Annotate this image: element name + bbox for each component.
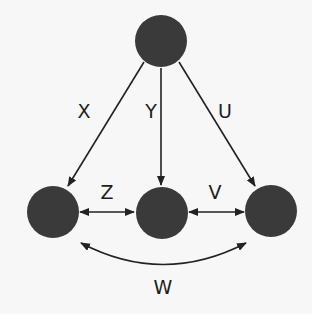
diagram-canvas: X Y U Z V W: [0, 0, 312, 314]
edge-u: [179, 62, 255, 186]
edge-x: [68, 62, 144, 186]
label-z: Z: [100, 181, 113, 203]
label-u: U: [218, 100, 232, 122]
node-top: [135, 15, 187, 67]
label-w: W: [154, 276, 173, 298]
label-v: V: [209, 181, 222, 203]
node-middle: [136, 187, 188, 239]
label-x: X: [77, 100, 90, 122]
node-left: [27, 186, 79, 238]
edge-w: [81, 243, 246, 265]
label-y: Y: [144, 100, 157, 122]
node-right: [245, 185, 297, 237]
